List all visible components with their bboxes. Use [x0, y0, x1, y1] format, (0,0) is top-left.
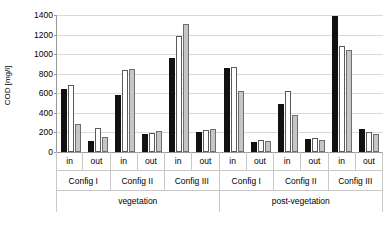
- y-axis-tick-200: 200: [39, 127, 53, 137]
- bar-series-1: [359, 129, 365, 152]
- bar-series-3: [373, 134, 379, 152]
- bar-series-3: [319, 140, 325, 152]
- x-axis-flow-row: inoutinoutinoutinoutinoutinout: [56, 152, 383, 171]
- bar-series-2: [258, 140, 264, 152]
- x-axis-flow-cell-3: in: [111, 152, 138, 171]
- bar-series-2: [366, 132, 372, 152]
- bar-series-1: [278, 104, 284, 152]
- x-axis-config-cell-1: Config I: [56, 171, 111, 191]
- bar-series-1: [305, 139, 311, 152]
- cod-bar-chart: COD [mg/l] 1400120010008006004002000 ino…: [0, 0, 387, 233]
- bar-series-2: [285, 91, 291, 152]
- y-axis-label-text: COD [mg/l]: [4, 65, 13, 105]
- bar-series-2: [176, 36, 182, 152]
- x-axis-flow-cell-8: out: [247, 152, 274, 171]
- x-axis-label-table: inoutinoutinoutinoutinoutinout Config IC…: [56, 152, 383, 212]
- bar-series-2: [122, 70, 128, 152]
- y-axis-tick-800: 800: [39, 69, 53, 79]
- y-axis-tick-600: 600: [39, 88, 53, 98]
- y-axis-label: COD [mg/l]: [1, 40, 15, 130]
- bar-group: [274, 15, 301, 152]
- bar-series-1: [224, 68, 230, 152]
- bar-series-3: [183, 24, 189, 152]
- x-axis-flow-cell-12: out: [356, 152, 383, 171]
- x-axis-flow-cell-11: in: [329, 152, 356, 171]
- bar-series-3: [102, 137, 108, 152]
- x-axis-flow-cell-10: out: [301, 152, 328, 171]
- bar-group: [356, 15, 383, 152]
- x-axis-config-cell-5: Config II: [274, 171, 329, 191]
- bar-series-3: [265, 141, 271, 152]
- bar-series-2: [312, 138, 318, 152]
- bar-series-3: [129, 69, 135, 152]
- y-axis-tick-400: 400: [39, 108, 53, 118]
- bar-series-1: [142, 134, 148, 152]
- y-axis-tick-1200: 1200: [34, 30, 53, 40]
- bar-group: [329, 15, 356, 152]
- phase-bar-block: [57, 15, 220, 152]
- plot-area: 1400120010008006004002000: [56, 15, 383, 153]
- bar-series-2: [231, 67, 237, 152]
- bar-series-2: [339, 46, 345, 152]
- bar-series-3: [346, 50, 352, 152]
- bar-group: [247, 15, 274, 152]
- bar-series-1: [251, 142, 257, 152]
- bar-group: [138, 15, 165, 152]
- x-axis-phase-cell-1: vegetation: [56, 191, 220, 212]
- bar-group: [57, 15, 84, 152]
- bar-series-3: [238, 91, 244, 152]
- bar-group: [111, 15, 138, 152]
- x-axis-flow-cell-7: in: [220, 152, 247, 171]
- x-axis-flow-cell-4: out: [138, 152, 165, 171]
- bar-series-1: [88, 141, 94, 152]
- y-axis-tick-0: 0: [48, 147, 53, 157]
- bar-group: [301, 15, 328, 152]
- bar-group: [166, 15, 193, 152]
- bar-series-3: [210, 129, 216, 152]
- y-axis-tick-1000: 1000: [34, 49, 53, 59]
- bar-group: [84, 15, 111, 152]
- x-axis-flow-cell-2: out: [83, 152, 110, 171]
- x-axis-flow-cell-6: out: [192, 152, 219, 171]
- bar-groups: [57, 15, 383, 152]
- x-axis-flow-cell-9: in: [274, 152, 301, 171]
- bar-group: [193, 15, 220, 152]
- bar-series-1: [169, 58, 175, 152]
- bar-series-2: [95, 128, 101, 152]
- x-axis-config-cell-6: Config III: [329, 171, 384, 191]
- bar-series-2: [203, 130, 209, 153]
- x-axis-config-cell-3: Config III: [165, 171, 220, 191]
- x-axis-config-row: Config IConfig IIConfig IIIConfig IConfi…: [56, 171, 383, 191]
- x-axis-flow-cell-1: in: [56, 152, 83, 171]
- phase-bar-block: [220, 15, 383, 152]
- bar-series-3: [75, 124, 81, 152]
- bar-series-1: [332, 16, 338, 152]
- bar-series-1: [115, 95, 121, 152]
- y-axis-tick-1400: 1400: [34, 10, 53, 20]
- x-axis-phase-row: vegetationpost-vegetation: [56, 191, 383, 212]
- x-axis-flow-cell-5: in: [165, 152, 192, 171]
- x-axis-config-cell-4: Config I: [220, 171, 275, 191]
- bar-series-1: [196, 132, 202, 152]
- x-axis-config-cell-2: Config II: [111, 171, 166, 191]
- bar-series-2: [149, 133, 155, 152]
- bar-series-2: [68, 85, 74, 152]
- bar-series-3: [292, 115, 298, 152]
- bar-series-3: [156, 131, 162, 152]
- bar-series-1: [61, 89, 67, 152]
- x-axis-phase-cell-2: post-vegetation: [220, 191, 384, 212]
- bar-group: [220, 15, 247, 152]
